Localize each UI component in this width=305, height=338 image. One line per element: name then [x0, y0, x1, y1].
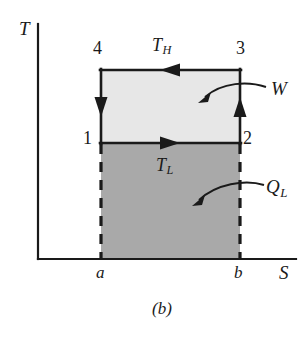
ts-diagram-figure: T S 4 3 1 2 TH TL W QL a b (b) [0, 0, 305, 338]
lower-isotherm-label: TL [156, 156, 173, 174]
upper-isotherm-label: TH [152, 36, 171, 54]
y-axis-label: T [19, 19, 30, 38]
x-tick-label-b: b [234, 264, 243, 281]
state-point-label-4: 4 [93, 39, 102, 57]
lower-isotherm-base: T [156, 155, 166, 175]
work-region-fill [101, 70, 240, 143]
work-label-base: W [271, 78, 287, 99]
x-tick-label-a: a [96, 264, 105, 281]
upper-isotherm-base: T [152, 35, 162, 55]
heat-low-label-base: Q [266, 176, 280, 197]
state-point-label-3: 3 [236, 39, 245, 57]
figure-caption: (b) [152, 300, 172, 317]
heat-low-label: QL [266, 177, 287, 196]
upper-isotherm-subscript: H [163, 43, 172, 57]
state-point-label-1: 1 [83, 129, 92, 147]
lower-isotherm-subscript: L [167, 163, 174, 177]
work-label: W [271, 79, 287, 98]
x-axis-label: S [279, 263, 289, 282]
heat-low-label-subscript: L [280, 185, 287, 200]
state-point-label-2: 2 [243, 129, 252, 147]
